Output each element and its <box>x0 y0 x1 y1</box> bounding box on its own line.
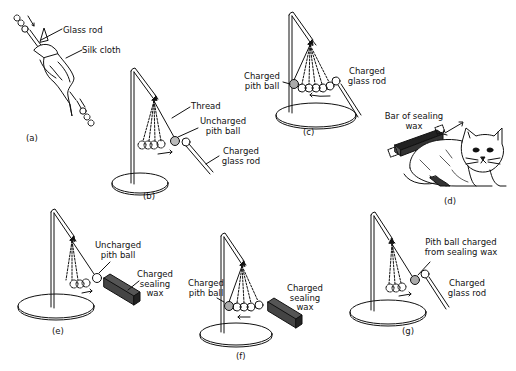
label-line-2: sealing <box>290 293 320 303</box>
label-line-2: pith ball <box>189 288 224 298</box>
caption-d: (d) <box>444 196 456 206</box>
label-uncharged-pith-ball-e: Uncharged pith ball <box>93 241 143 260</box>
label-line-2: pith ball <box>101 250 136 260</box>
label-line-1: Charged <box>287 283 323 293</box>
label-charged-glass-rod-g: Charged glass rod <box>444 279 490 298</box>
panel-d-illustration <box>388 122 506 186</box>
label-line-2: glass rod <box>348 76 386 86</box>
label-line-2: pith ball <box>206 126 241 136</box>
label-thread: Thread <box>191 102 221 112</box>
label-charged-sealing-wax-f: Charged sealing wax <box>284 284 326 313</box>
label-line-1: Charged <box>449 278 485 288</box>
diagram-artwork <box>0 0 516 371</box>
caption-b: (b) <box>143 191 155 201</box>
label-line-2: wax <box>405 121 422 131</box>
label-line-1: Charged <box>223 146 259 156</box>
label-charged-glass-rod-c: Charged glass rod <box>344 67 390 86</box>
label-silk-cloth: Silk cloth <box>82 46 121 56</box>
label-charged-glass-rod-b: Charged glass rod <box>218 147 264 166</box>
label-line-1: Charged <box>349 66 385 76</box>
caption-e: (e) <box>52 326 64 336</box>
label-line-2: pith ball <box>245 81 280 91</box>
label-bar-of-sealing-wax: Bar of sealing wax <box>383 112 445 131</box>
caption-c: (c) <box>303 127 314 137</box>
label-line-2: glass rod <box>448 288 486 298</box>
label-line-1: Uncharged <box>95 240 141 250</box>
label-line-1: Bar of sealing <box>385 111 444 121</box>
label-line-2: from sealing wax <box>425 247 498 257</box>
label-charged-sealing-wax-e: Charged sealing wax <box>134 270 176 299</box>
label-line-2: glass rod <box>222 156 260 166</box>
caption-g: (g) <box>402 326 414 336</box>
panel-e-illustration <box>18 209 140 320</box>
label-line-1: Charged <box>137 269 173 279</box>
label-line-2: sealing <box>140 279 170 289</box>
label-line-1: Charged <box>244 71 280 81</box>
label-charged-pith-ball-c: Charged pith ball <box>240 72 284 91</box>
panel-g-illustration <box>350 212 449 326</box>
caption-a: (a) <box>26 133 38 143</box>
label-pith-ball-charged-from-sealing-wax: Pith ball charged from sealing wax <box>423 238 499 257</box>
caption-f: (f) <box>236 351 246 361</box>
electrostatics-diagram: Glass rod Silk cloth (a) Thread Uncharge… <box>0 0 516 371</box>
label-line-1: Uncharged <box>200 116 246 126</box>
label-line-1: Charged <box>188 278 224 288</box>
label-glass-rod: Glass rod <box>63 26 103 36</box>
label-line-3: wax <box>146 288 163 298</box>
label-line-1: Pith ball charged <box>425 237 496 247</box>
label-line-3: wax <box>296 302 313 312</box>
label-uncharged-pith-ball-b: Uncharged pith ball <box>198 117 248 136</box>
label-charged-pith-ball-f: Charged pith ball <box>185 279 227 298</box>
